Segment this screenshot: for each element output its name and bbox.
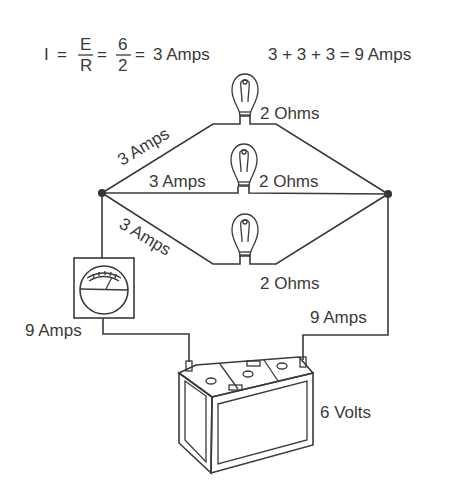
formula-result: 3 Amps (153, 45, 210, 64)
middle-branch-current-label: 3 Amps (149, 172, 206, 191)
ammeter-current-label: 9 Amps (25, 321, 82, 340)
formula-den-value: 2 (118, 56, 127, 75)
top-branch-resistance-label: 2 Ohms (260, 104, 320, 123)
formula-num-value: 6 (118, 35, 127, 54)
formula-numerator: E (80, 35, 91, 54)
sum-formula: 3 + 3 + 3 = 9 Amps (268, 45, 411, 64)
light-bulb-icon (232, 214, 258, 256)
battery-voltage-label: 6 Volts (320, 403, 371, 422)
return-current-label: 9 Amps (310, 308, 367, 327)
bottom-branch-resistance-label: 2 Ohms (260, 274, 320, 293)
light-bulb-icon (232, 74, 258, 116)
middle-branch (102, 186, 388, 194)
bottom-branch-right-wire (250, 194, 388, 264)
formula-equals-1: = (57, 45, 67, 64)
parallel-circuit-diagram: I = E R = 6 2 = 3 Amps 3 + 3 + 3 = 9 Amp… (0, 0, 467, 499)
middle-branch-resistance-label: 2 Ohms (259, 172, 319, 191)
light-bulb-icon (231, 144, 257, 186)
formula-equals-3: = (135, 45, 145, 64)
formula-lhs: I (44, 45, 49, 64)
ohms-law-formula: I = E R = 6 2 = 3 Amps (44, 35, 210, 75)
formula-equals-2: = (97, 45, 107, 64)
top-branch-current-label: 3 Amps (114, 124, 172, 169)
battery-icon (179, 357, 313, 473)
battery-negative-wire (103, 318, 189, 362)
formula-denominator: R (80, 56, 92, 75)
ammeter-icon (74, 258, 134, 318)
